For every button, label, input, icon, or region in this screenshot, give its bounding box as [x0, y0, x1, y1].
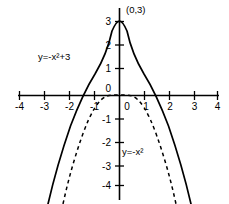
x-tick-label-2: 2: [167, 101, 173, 112]
x-tick-label-1: 1: [143, 101, 149, 112]
parabola-graph-figure: -4 -3 -2 -1 0 1 2 3 4 3 2 1 0 -1 -2 -3 -…: [0, 0, 229, 204]
y-tick-label-neg1: -1: [102, 114, 111, 125]
y-tick-label-3: 3: [105, 16, 111, 27]
x-tick-label-neg1: -1: [90, 101, 99, 112]
y-tick-label-neg4: -4: [102, 180, 111, 191]
x-tick-label-neg2: -2: [65, 101, 74, 112]
x-tick-label-neg4: -4: [15, 101, 24, 112]
x-tick-label-3: 3: [192, 101, 198, 112]
vertex-point-label: (0,3): [126, 4, 146, 15]
solid-curve-label: y=-x²+3: [38, 51, 70, 62]
y-tick-label-neg2: -2: [102, 137, 111, 148]
dashed-curve-label: y=-x²: [122, 146, 143, 157]
y-tick-label-1: 1: [105, 63, 111, 74]
x-tick-label-4: 4: [215, 101, 221, 112]
x-tick-label-neg3: -3: [40, 101, 49, 112]
y-tick-label-neg3: -3: [102, 161, 111, 172]
x-tick-label-0: 0: [124, 101, 130, 112]
plot-canvas: -4 -3 -2 -1 0 1 2 3 4 3 2 1 0 -1 -2 -3 -…: [0, 0, 229, 204]
y-tick-label-0: 0: [105, 83, 111, 94]
y-tick-label-2: 2: [105, 40, 111, 51]
